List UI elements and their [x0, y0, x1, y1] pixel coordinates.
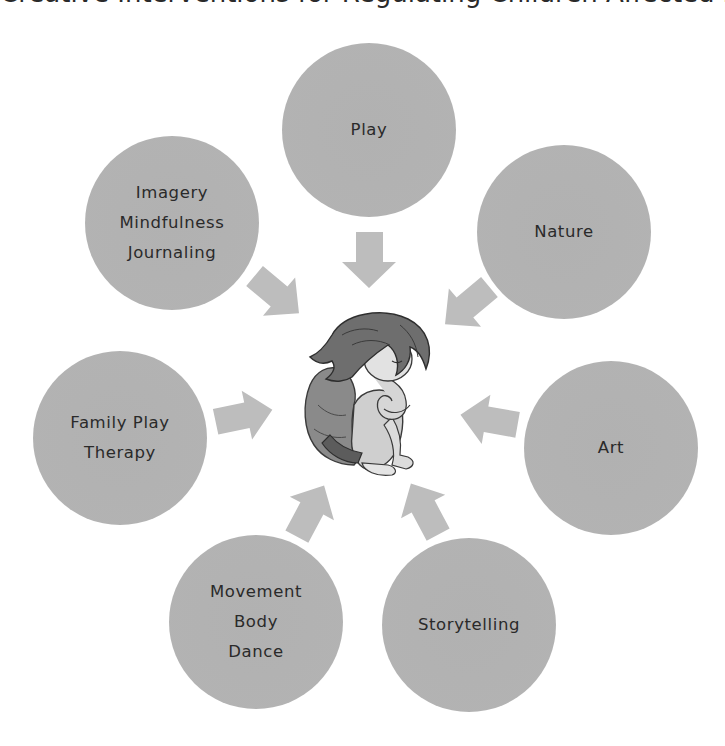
node-storytelling: Storytelling: [382, 538, 556, 712]
node-line: Therapy: [70, 438, 169, 468]
node-family-play-therapy: Family Play Therapy: [33, 351, 207, 525]
node-line: Art: [598, 433, 624, 463]
node-line: Nature: [534, 217, 594, 247]
node-play: Play: [282, 43, 456, 217]
node-label-play: Play: [351, 115, 388, 145]
arrow-down-icon: [342, 232, 396, 288]
node-line: Mindfulness: [119, 208, 224, 238]
node-label-art: Art: [598, 433, 624, 463]
node-line: Storytelling: [418, 610, 520, 640]
node-line: Imagery: [119, 178, 224, 208]
node-nature: Nature: [477, 145, 651, 319]
node-line: Movement: [210, 577, 302, 607]
node-art: Art: [524, 361, 698, 535]
node-line: Body: [210, 607, 302, 637]
node-label-imagery: Imagery Mindfulness Journaling: [119, 178, 224, 268]
arrow-up-right-icon: [275, 474, 346, 549]
node-line: Journaling: [119, 238, 224, 268]
arrow-up-left-icon: [389, 472, 460, 547]
node-imagery: Imagery Mindfulness Journaling: [85, 136, 259, 310]
node-line: Family Play: [70, 408, 169, 438]
child-figure-icon: [292, 305, 444, 480]
node-movement: Movement Body Dance: [169, 535, 343, 709]
node-line: Play: [351, 115, 388, 145]
arrow-left-icon: [456, 390, 522, 449]
node-label-movement: Movement Body Dance: [210, 577, 302, 667]
node-label-family-play-therapy: Family Play Therapy: [70, 408, 169, 468]
diagram-title: Creative Interventions for Regulating Ch…: [0, 0, 725, 8]
node-line: Dance: [210, 637, 302, 667]
node-label-nature: Nature: [534, 217, 594, 247]
node-label-storytelling: Storytelling: [418, 610, 520, 640]
arrow-right-icon: [210, 385, 277, 446]
